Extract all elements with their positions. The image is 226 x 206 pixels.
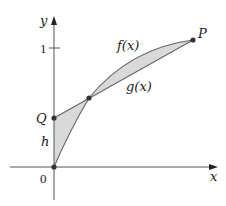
point-Q-label: Q [36,111,47,126]
point-intersection [86,95,91,100]
point-P-label: P [197,26,207,41]
origin-label: 0 [40,171,47,186]
point-Q [51,115,56,120]
y-axis-label: y [39,13,48,28]
region-h-label: h [41,134,49,149]
function-diagram: y 1 Q h 0 x f(x) g(x) P [0,0,226,206]
line-g-label: g(x) [126,79,152,94]
curve-f [54,40,193,167]
x-axis-label: x [210,169,218,184]
point-origin [51,164,56,169]
y-axis-arrow-icon [51,16,57,25]
y-tick-label: 1 [40,41,47,56]
curve-f-label: f(x) [116,38,139,53]
point-P [190,37,195,42]
